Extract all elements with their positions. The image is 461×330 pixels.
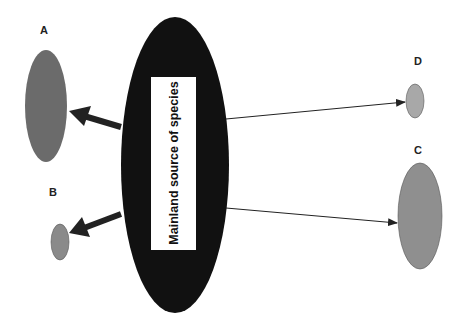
island-d: D [406, 55, 424, 118]
island-b-label: B [49, 186, 57, 198]
arrow-to-c [226, 208, 397, 223]
arrow-to-b [69, 214, 121, 237]
mainland: Mainland source of species [121, 17, 229, 313]
arrow-to-a [69, 106, 121, 127]
island-c: C [398, 144, 442, 269]
island-c-label: C [414, 144, 422, 156]
island-b: B [49, 186, 69, 260]
arrow-to-d [226, 102, 405, 119]
mainland-label: Mainland source of species [167, 81, 181, 244]
island-a: A [25, 24, 67, 162]
island-c-ellipse [398, 163, 442, 269]
island-d-ellipse [406, 84, 424, 118]
island-a-ellipse [25, 50, 67, 162]
island-b-ellipse [51, 224, 69, 260]
island-d-label: D [414, 55, 422, 67]
island-biogeography-diagram: Mainland source of species A B D C [0, 0, 461, 330]
island-a-label: A [40, 24, 48, 36]
